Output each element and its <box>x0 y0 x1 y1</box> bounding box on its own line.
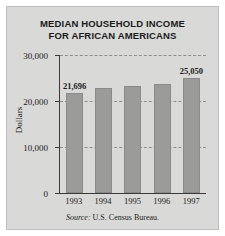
bar-series: 21,696 25,050 <box>60 55 206 193</box>
x-tick-label-1993: 1993 <box>59 196 88 206</box>
chart-title-line-1: MEDIAN HOUSEHOLD INCOME <box>7 18 218 30</box>
y-tick-label-0: 0 <box>44 189 49 199</box>
bar-slot <box>148 55 177 193</box>
bar-1997 <box>183 78 200 193</box>
chart-figure: MEDIAN HOUSEHOLD INCOME FOR AFRICAN AMER… <box>6 6 219 230</box>
x-tick-label-1996: 1996 <box>147 196 176 206</box>
y-tick-0: 0 <box>55 193 60 194</box>
y-tick-label-30000: 30,000 <box>23 51 48 61</box>
bar-slot <box>89 55 118 193</box>
plot-area: 30,000 20,000 10,000 0 21,696 <box>59 55 206 194</box>
x-tick-label-1994: 1994 <box>88 196 117 206</box>
chart-title-line-2: FOR AFRICAN AMERICANS <box>7 30 218 42</box>
bar-1995 <box>124 86 141 193</box>
bar-slot: 25,050 <box>177 55 206 193</box>
chart-title: MEDIAN HOUSEHOLD INCOME FOR AFRICAN AMER… <box>7 18 218 41</box>
source-caption: Source: U.S. Census Bureau. <box>7 213 218 222</box>
x-tick-label-1997: 1997 <box>177 196 206 206</box>
bar-value-label: 21,696 <box>63 81 86 91</box>
source-text: U.S. Census Bureau. <box>93 213 159 222</box>
bar-slot: 21,696 <box>60 55 89 193</box>
y-tick-label-20000: 20,000 <box>23 97 48 107</box>
y-tick-label-10000: 10,000 <box>23 143 48 153</box>
bar-value-label: 25,050 <box>180 66 203 76</box>
bar-1993 <box>66 93 83 193</box>
bar-1994 <box>95 88 112 193</box>
bar-slot <box>118 55 147 193</box>
bar-1996 <box>154 84 171 193</box>
x-tick-label-1995: 1995 <box>118 196 147 206</box>
x-axis-labels: 1993 1994 1995 1996 1997 <box>59 196 206 206</box>
source-prefix: Source: <box>66 213 91 222</box>
